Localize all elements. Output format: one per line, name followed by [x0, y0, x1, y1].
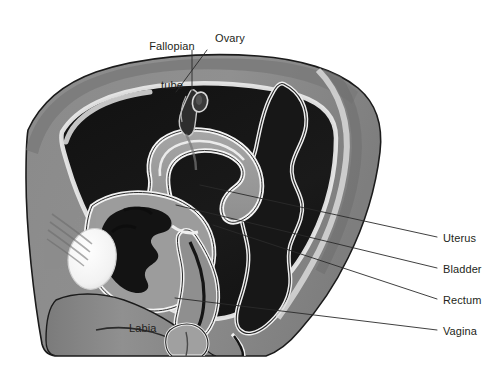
label-rectum: Rectum	[443, 294, 482, 307]
label-bladder: Bladder	[443, 263, 482, 276]
label-ovary: Ovary	[206, 32, 254, 45]
label-fallopian-tube-line2: tube	[139, 79, 205, 92]
label-fallopian-tube: Fallopian tube	[139, 14, 205, 118]
anatomy-illustration	[0, 0, 497, 378]
label-fallopian-tube-line1: Fallopian	[139, 40, 205, 53]
labia-structure	[166, 324, 208, 356]
label-vagina: Vagina	[443, 325, 477, 338]
label-uterus: Uterus	[443, 232, 476, 245]
figure-page: Fallopian tube Ovary Labia Uterus Bladde…	[0, 0, 497, 378]
label-labia: Labia	[129, 322, 156, 335]
